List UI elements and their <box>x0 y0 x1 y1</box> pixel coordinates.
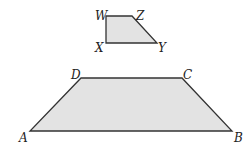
vertex-label-x: X <box>94 41 104 55</box>
vertex-label-a: A <box>18 131 28 145</box>
vertex-label-d: D <box>70 68 81 82</box>
vertex-label-c: C <box>183 68 192 82</box>
vertex-label-w: W <box>95 9 109 23</box>
trapezoid-figure: WZYXDCBA <box>0 0 251 149</box>
vertex-label-b: B <box>233 131 243 145</box>
vertex-label-z: Z <box>135 9 145 23</box>
vertex-label-y: Y <box>158 41 167 55</box>
trapezoid-wxyz <box>106 16 157 43</box>
trapezoid-abcd <box>30 78 232 131</box>
